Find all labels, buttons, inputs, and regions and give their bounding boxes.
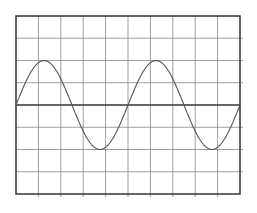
grid-lines — [16, 16, 243, 197]
oscilloscope-chart — [0, 0, 257, 213]
